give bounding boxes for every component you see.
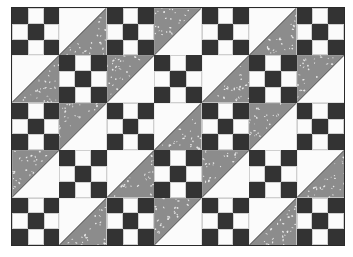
half-square-triangle-block [249,198,296,245]
light-square [12,119,28,135]
light-square [233,24,249,40]
light-square [249,166,265,182]
light-square [28,8,44,24]
nine-patch-block [297,103,344,150]
dark-square [107,229,123,245]
dark-square [123,213,139,229]
nine-patch-block [154,150,201,197]
dark-square [328,134,344,150]
dark-square [28,119,44,135]
dark-square [233,198,249,214]
light-square [202,213,218,229]
light-square [281,71,297,87]
dark-square [281,182,297,198]
dark-square [281,87,297,103]
half-square-triangle-block [59,198,106,245]
dark-square [154,182,170,198]
light-square [59,71,75,87]
dark-square [107,134,123,150]
dark-square [328,40,344,56]
light-square [28,103,44,119]
light-square [328,119,344,135]
dark-square [312,213,328,229]
dark-square [328,103,344,119]
dark-square [186,182,202,198]
dark-square [202,134,218,150]
light-square [312,134,328,150]
dark-square [297,229,313,245]
dark-square [44,40,60,56]
nine-patch-block [12,103,59,150]
half-square-triangle-block [59,8,106,55]
dark-square [281,55,297,71]
light-square [218,103,234,119]
dark-square [138,103,154,119]
dark-square [107,103,123,119]
light-square [281,166,297,182]
nine-patch-block [107,198,154,245]
nine-patch-block [202,198,249,245]
dark-square [44,229,60,245]
nine-patch-block [107,103,154,150]
quilt-pattern [11,7,345,246]
light-square [28,134,44,150]
half-square-triangle-block [12,55,59,102]
dark-square [91,87,107,103]
dark-square [154,87,170,103]
dark-square [281,150,297,166]
nine-patch-block [297,198,344,245]
dark-square [75,71,91,87]
nine-patch-block [59,55,106,102]
dark-square [91,182,107,198]
light-square [75,55,91,71]
light-square [218,8,234,24]
light-square [328,24,344,40]
light-square [123,198,139,214]
light-square [170,87,186,103]
light-square [12,24,28,40]
dark-square [170,166,186,182]
dark-square [218,213,234,229]
light-square [91,71,107,87]
dark-square [202,198,218,214]
nine-patch-block [107,8,154,55]
dark-square [202,40,218,56]
dark-square [138,198,154,214]
light-square [170,150,186,166]
dark-square [186,150,202,166]
light-square [233,213,249,229]
dark-square [249,182,265,198]
dark-square [312,24,328,40]
light-square [91,166,107,182]
light-square [107,119,123,135]
dark-square [233,134,249,150]
dark-square [59,150,75,166]
dark-square [59,87,75,103]
light-square [202,119,218,135]
light-square [44,119,60,135]
light-square [218,134,234,150]
light-square [218,198,234,214]
half-square-triangle-block [249,103,296,150]
nine-patch-block [202,103,249,150]
dark-square [123,24,139,40]
dark-square [265,71,281,87]
nine-patch-block [12,198,59,245]
light-square [328,213,344,229]
light-square [138,24,154,40]
light-square [123,8,139,24]
light-square [28,229,44,245]
half-square-triangle-block [297,150,344,197]
light-square [202,24,218,40]
light-square [44,213,60,229]
light-square [186,71,202,87]
light-square [138,119,154,135]
half-square-triangle-block [202,150,249,197]
dark-square [249,150,265,166]
nine-patch-block [12,8,59,55]
light-square [218,229,234,245]
dark-square [107,40,123,56]
dark-square [44,198,60,214]
dark-square [59,182,75,198]
dark-square [297,134,313,150]
